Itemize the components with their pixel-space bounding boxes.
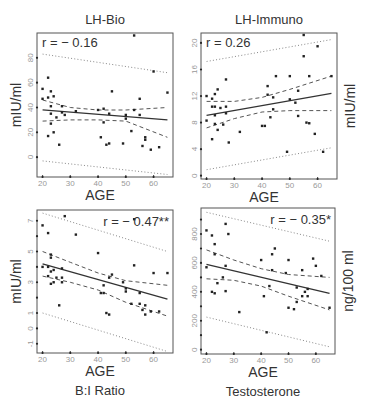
data-point	[144, 313, 146, 315]
data-point	[293, 308, 295, 310]
data-point	[296, 286, 298, 288]
data-point	[122, 281, 124, 283]
data-point	[47, 96, 49, 98]
data-point	[211, 138, 213, 140]
data-point	[211, 105, 213, 107]
data-point	[138, 292, 140, 294]
plot-frame	[201, 208, 335, 354]
x-tick-label: 20	[202, 356, 211, 365]
data-point	[271, 269, 273, 271]
x-tick-label: 60	[311, 356, 320, 365]
data-point	[108, 142, 110, 144]
data-point	[125, 290, 127, 292]
data-point	[144, 136, 146, 138]
data-point	[214, 105, 216, 107]
data-point	[64, 215, 66, 217]
x-axis-label: AGE	[249, 189, 279, 205]
data-point	[41, 224, 43, 226]
data-point	[289, 98, 291, 100]
data-point	[287, 307, 289, 309]
data-point	[301, 295, 303, 297]
data-point	[272, 108, 274, 110]
x-tick-label: 20	[38, 179, 47, 188]
y-tick-label: 16	[190, 65, 199, 74]
data-point	[108, 276, 110, 278]
y-tick-label: 4	[190, 146, 199, 151]
data-point	[265, 331, 267, 333]
plot-area: 2030405060020406080	[26, 33, 173, 188]
correlation-annotation: r = − 0.35*	[270, 212, 331, 227]
panel-lh-bio: LH-Bio 2030405060020406080 r = − 0.16 AG…	[8, 12, 173, 203]
y-tick-label: 0	[190, 347, 199, 352]
data-point	[50, 90, 52, 92]
data-point	[138, 114, 140, 116]
data-point	[50, 256, 52, 258]
data-point	[224, 223, 226, 225]
panel-caption: Testosterone	[226, 384, 300, 399]
data-point	[328, 307, 330, 309]
data-point	[269, 116, 271, 118]
data-point	[260, 259, 262, 261]
data-point	[108, 313, 110, 315]
y-tick-label: 1	[26, 310, 35, 315]
x-tick-label: 30	[66, 179, 75, 188]
data-point	[47, 266, 49, 268]
data-point	[61, 281, 63, 283]
data-point	[306, 295, 308, 297]
data-point	[61, 276, 63, 278]
data-point	[272, 96, 274, 98]
data-point	[141, 145, 143, 147]
data-point	[266, 94, 268, 96]
data-point	[205, 95, 207, 97]
data-point	[52, 131, 54, 133]
data-point	[216, 282, 218, 284]
plot-area: 2030405060-101357	[26, 210, 173, 364]
data-point	[47, 76, 49, 78]
data-point	[211, 234, 213, 236]
data-point	[102, 292, 104, 294]
x-tick-label: 60	[149, 355, 158, 364]
correlation-annotation: r = − 0.47**	[103, 214, 169, 229]
data-point	[133, 264, 135, 266]
data-point	[211, 98, 213, 100]
x-tick-label: 30	[229, 356, 238, 365]
panel-title: LH-Bio	[85, 12, 125, 27]
data-point	[316, 45, 318, 47]
data-point	[225, 112, 227, 114]
prediction-band-lower	[43, 161, 168, 175]
data-point	[322, 151, 324, 153]
data-point	[130, 303, 132, 305]
data-point	[41, 98, 43, 100]
data-point	[58, 144, 60, 146]
data-point	[271, 253, 273, 255]
data-point	[97, 252, 99, 254]
data-point	[211, 291, 213, 293]
x-tick-label: 60	[149, 179, 158, 188]
data-point	[275, 75, 277, 77]
data-point	[205, 266, 207, 268]
confidence-band-upper	[43, 100, 168, 110]
data-point	[47, 232, 49, 234]
data-point	[50, 122, 52, 124]
data-point	[306, 288, 308, 290]
data-point	[41, 266, 43, 268]
data-point	[286, 151, 288, 153]
y-tick-label: 7	[26, 218, 35, 223]
prediction-band-upper	[43, 54, 168, 73]
data-point	[315, 265, 317, 267]
data-point	[50, 283, 52, 285]
data-point	[125, 117, 127, 119]
y-tick-label: -1	[26, 340, 35, 348]
y-tick-label: 20	[190, 38, 199, 47]
correlation-annotation: r = − 0.16	[42, 35, 98, 50]
data-point	[50, 105, 52, 107]
y-tick-label: 60	[26, 78, 35, 87]
data-point	[228, 141, 230, 143]
confidence-band-upper	[207, 250, 330, 278]
plot-frame	[201, 33, 337, 179]
data-point	[97, 109, 99, 111]
prediction-band-lower	[207, 317, 330, 347]
data-point	[294, 101, 296, 103]
data-point	[302, 55, 304, 57]
y-axis-label: mIU/ml	[8, 83, 24, 127]
